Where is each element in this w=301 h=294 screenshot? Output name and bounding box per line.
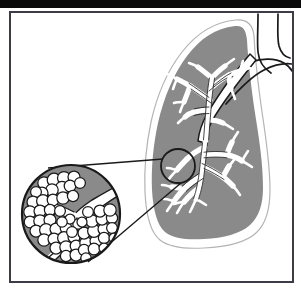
alveolus (83, 207, 94, 218)
alveolus (77, 217, 87, 227)
figure-root (0, 0, 301, 294)
lung-alveoli-diagram (0, 0, 301, 294)
alveolus (98, 232, 109, 243)
alveolus (57, 217, 67, 227)
alveolus (67, 190, 78, 201)
alveolus (55, 206, 66, 217)
alveolus (67, 227, 78, 238)
alveolus (88, 243, 100, 255)
alveolus (75, 178, 86, 189)
alveolus (104, 204, 116, 216)
